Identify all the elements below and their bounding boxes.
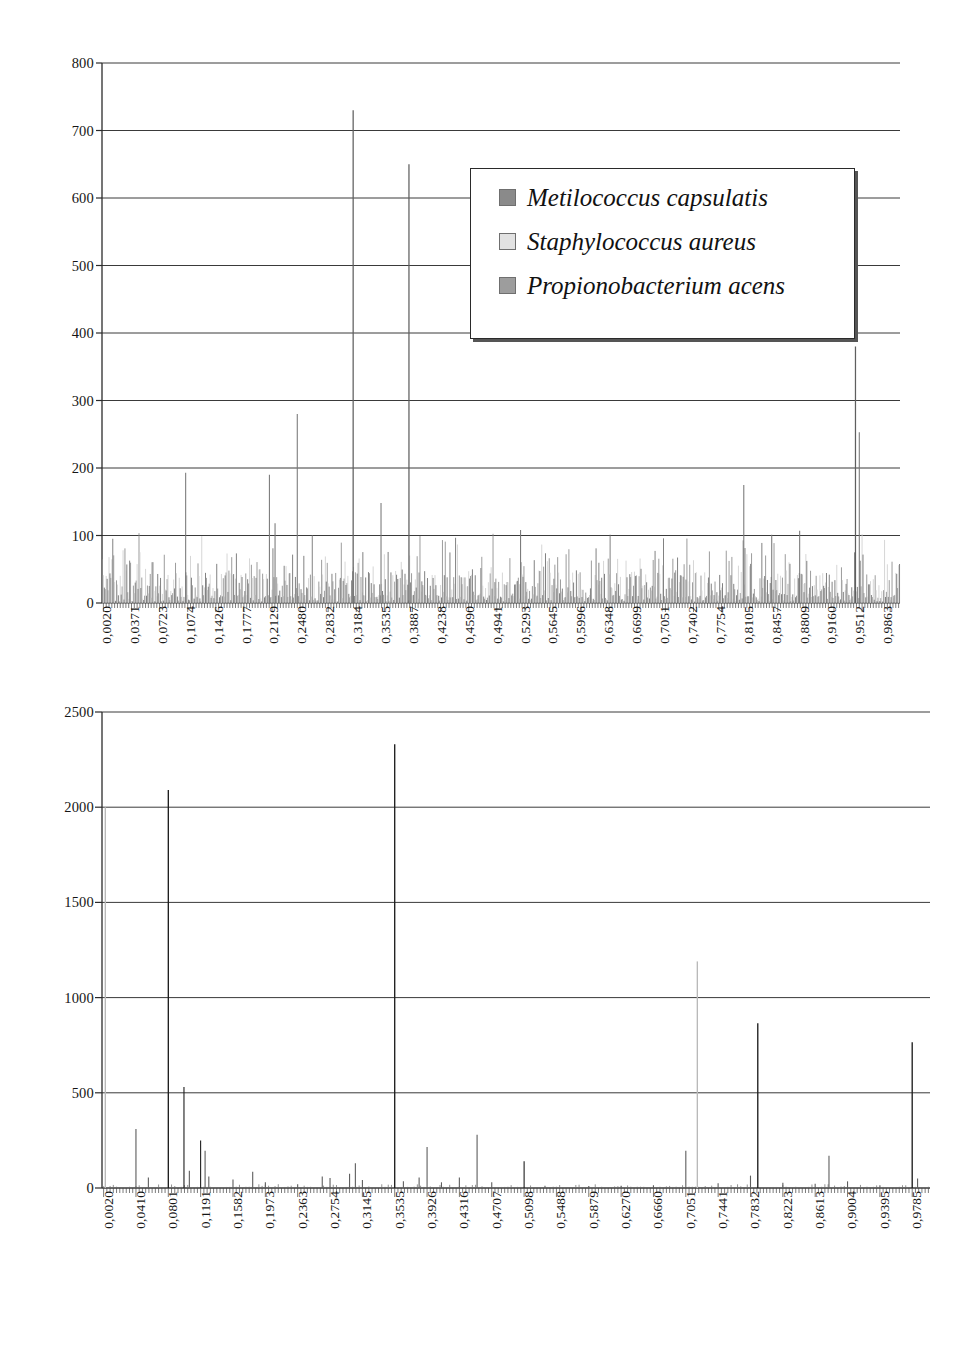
chart-bottom: 05001000150020002500 0,00200,04100,08010… bbox=[0, 690, 959, 1290]
chart-top-plot-area bbox=[0, 45, 959, 665]
x-axis-tick-label: 0,2832 bbox=[322, 606, 338, 644]
x-axis-tick-label: 0,4238 bbox=[434, 606, 450, 644]
x-axis-tick-label: 0,8223 bbox=[780, 1191, 796, 1229]
x-axis-tick-label: 0,9004 bbox=[844, 1191, 860, 1229]
x-axis-tick-label: 0,0410 bbox=[133, 1191, 149, 1229]
chart-top-legend: Metilococcus capsulatis Staphylococcus a… bbox=[470, 168, 855, 339]
x-axis-tick-label: 0,9160 bbox=[824, 606, 840, 644]
x-axis-tick-label: 0,5879 bbox=[586, 1191, 602, 1229]
x-axis-tick-label: 0,5645 bbox=[545, 606, 561, 644]
x-axis-tick-label: 0,8105 bbox=[741, 606, 757, 644]
x-axis-tick-label: 0,2129 bbox=[266, 606, 282, 644]
x-axis-tick-label: 0,8613 bbox=[812, 1191, 828, 1229]
x-axis-tick-label: 0,4316 bbox=[456, 1191, 472, 1229]
legend-swatch-icon bbox=[499, 277, 516, 294]
x-axis-tick-label: 0,1191 bbox=[198, 1191, 214, 1228]
x-axis-tick-label: 0,4941 bbox=[490, 606, 506, 644]
x-axis-tick-label: 0,3535 bbox=[378, 606, 394, 644]
x-axis-tick-label: 0,1973 bbox=[262, 1191, 278, 1229]
x-axis-tick-label: 0,6699 bbox=[629, 606, 645, 644]
x-axis-tick-label: 0,1582 bbox=[230, 1191, 246, 1229]
x-axis-tick-label: 0,5098 bbox=[521, 1191, 537, 1229]
x-axis-tick-label: 0,6660 bbox=[650, 1191, 666, 1229]
legend-swatch-icon bbox=[499, 233, 516, 250]
x-axis-tick-label: 0,6270 bbox=[618, 1191, 634, 1229]
legend-label: Metilococcus capsulatis bbox=[527, 185, 768, 210]
x-axis-tick-label: 0,0371 bbox=[127, 606, 143, 644]
x-axis-tick-label: 0,2480 bbox=[294, 606, 310, 644]
x-axis-tick-label: 0,0723 bbox=[155, 606, 171, 644]
x-axis-tick-label: 0,7754 bbox=[713, 606, 729, 644]
x-axis-tick-label: 0,7051 bbox=[657, 606, 673, 644]
x-axis-tick-label: 0,6348 bbox=[601, 606, 617, 644]
chart-top: 0100200300400500600700800 0,00200,03710,… bbox=[0, 45, 959, 665]
x-axis-tick-label: 0,3145 bbox=[359, 1191, 375, 1229]
x-axis-tick-label: 0,4707 bbox=[489, 1191, 505, 1229]
x-axis-tick-label: 0,3926 bbox=[424, 1191, 440, 1229]
x-axis-tick-label: 0,5488 bbox=[553, 1191, 569, 1229]
x-axis-tick-label: 0,2754 bbox=[327, 1191, 343, 1229]
x-axis-tick-label: 0,3535 bbox=[392, 1191, 408, 1229]
x-axis-tick-label: 0,3887 bbox=[406, 606, 422, 644]
x-axis-tick-label: 0,7051 bbox=[683, 1191, 699, 1229]
x-axis-tick-label: 0,9863 bbox=[880, 606, 896, 644]
legend-label: Propionobacterium acens bbox=[527, 273, 785, 298]
x-axis-tick-label: 0,3184 bbox=[350, 606, 366, 644]
x-axis-tick-label: 0,5293 bbox=[518, 606, 534, 644]
x-axis-tick-label: 0,9785 bbox=[909, 1191, 925, 1229]
x-axis-tick-label: 0,7832 bbox=[747, 1191, 763, 1229]
x-axis-tick-label: 0,4590 bbox=[462, 606, 478, 644]
legend-item: Propionobacterium acens bbox=[499, 273, 854, 298]
x-axis-tick-label: 0,1426 bbox=[211, 606, 227, 644]
x-axis-tick-label: 0,2363 bbox=[295, 1191, 311, 1229]
legend-item: Staphylococcus aureus bbox=[499, 229, 854, 254]
x-axis-tick-label: 0,7402 bbox=[685, 606, 701, 644]
figure-page: 0100200300400500600700800 0,00200,03710,… bbox=[0, 0, 959, 1347]
legend-label: Staphylococcus aureus bbox=[527, 229, 756, 254]
x-axis-tick-label: 0,1074 bbox=[183, 606, 199, 644]
x-axis-tick-label: 0,9395 bbox=[877, 1191, 893, 1229]
x-axis-tick-label: 0,0801 bbox=[165, 1191, 181, 1229]
x-axis-tick-label: 0,8457 bbox=[769, 606, 785, 644]
x-axis-tick-label: 0,5996 bbox=[573, 606, 589, 644]
legend-swatch-icon bbox=[499, 189, 516, 206]
x-axis-tick-label: 0,0020 bbox=[99, 606, 115, 644]
x-axis-tick-label: 0,1777 bbox=[239, 606, 255, 644]
x-axis-tick-label: 0,7441 bbox=[715, 1191, 731, 1229]
x-axis-tick-label: 0,9512 bbox=[852, 606, 868, 644]
x-axis-tick-label: 0,8809 bbox=[797, 606, 813, 644]
legend-item: Metilococcus capsulatis bbox=[499, 185, 854, 210]
x-axis-tick-label: 0,0020 bbox=[101, 1191, 117, 1229]
